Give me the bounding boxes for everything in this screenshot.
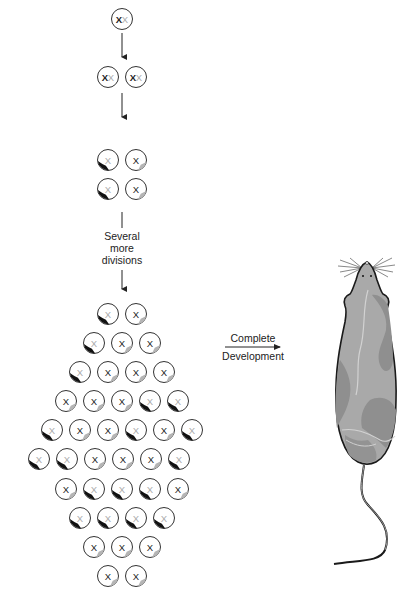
- x-chromosome-label: X: [63, 484, 70, 495]
- x-chromosome-label: X: [147, 338, 154, 349]
- cell-black: X: [168, 391, 189, 412]
- cell-grey: X: [98, 420, 119, 441]
- x-chromosome-label: X: [119, 542, 126, 553]
- x-chromosome-label: X: [133, 309, 140, 320]
- cell-grey: X: [56, 479, 77, 500]
- mouse-tail: [334, 465, 387, 564]
- cell-grey: X: [70, 420, 91, 441]
- cell-black: X: [182, 420, 203, 441]
- x-chromosome-label: X: [175, 396, 182, 407]
- cells-layer: XXXXXXXXXXXXXXXXXXXXXXXXXXXXXXXXXXXXXXXX…: [29, 9, 203, 587]
- complete-development-bottom-label: Development: [220, 350, 286, 362]
- mouse-eye-right: [370, 275, 372, 277]
- x-chromosome-label: X: [49, 425, 56, 436]
- cell-black: X: [84, 479, 105, 500]
- cell-grey: X: [56, 391, 77, 412]
- x-chromosome-label: X: [161, 513, 168, 524]
- cell-grey: X: [112, 333, 133, 354]
- cell-grey: X: [85, 449, 106, 470]
- x-chromosome-label: X: [133, 367, 140, 378]
- x-chromosome-label: X: [119, 338, 126, 349]
- x-chromosome-label: X: [91, 396, 98, 407]
- x-chromosome-label: X: [91, 484, 98, 495]
- x-chromosome-label: X: [91, 338, 98, 349]
- several-more-divisions-label: Several more divisions: [92, 230, 152, 266]
- cell-black: X: [154, 508, 175, 529]
- label-line: more: [92, 242, 152, 254]
- cell-black: X: [169, 449, 190, 470]
- x-chromosome-label: X: [161, 367, 168, 378]
- x-chromosome-label: X: [91, 542, 98, 553]
- x-inactivation-diagram: XXXXXXXXXXXXXXXXXXXXXXXXXXXXXXXXXXXXXXXX…: [0, 0, 414, 615]
- cell-grey: X: [154, 362, 175, 383]
- cell-black: X: [98, 179, 119, 200]
- cell-black: X: [57, 449, 78, 470]
- cell-black: X: [70, 362, 91, 383]
- cell-grey: X: [140, 333, 161, 354]
- x-chromosome-label: X: [77, 425, 84, 436]
- mouse-eye-left: [362, 275, 364, 277]
- x-chromosome-label: X: [105, 513, 112, 524]
- x-chromosome-label: X: [36, 454, 43, 465]
- x-chromosome-label: X: [147, 542, 154, 553]
- x-chromosome-label: X: [92, 454, 99, 465]
- x-chromosome-label: X: [77, 513, 84, 524]
- x-chromosome-label: X: [108, 72, 115, 83]
- cell-XX: XX: [98, 67, 119, 88]
- x-chromosome-label: X: [148, 454, 155, 465]
- cell-black: X: [140, 479, 161, 500]
- cell-XX: XX: [112, 9, 133, 30]
- x-chromosome-label: X: [147, 484, 154, 495]
- cell-black: X: [70, 508, 91, 529]
- cell-grey: X: [126, 566, 147, 587]
- cell-black: X: [112, 479, 133, 500]
- label-line: divisions: [92, 254, 152, 266]
- cell-grey: X: [154, 420, 175, 441]
- cell-grey: X: [168, 479, 189, 500]
- x-chromosome-label: X: [63, 396, 70, 407]
- x-chromosome-label: X: [133, 513, 140, 524]
- cell-black: X: [84, 333, 105, 354]
- x-chromosome-label: X: [119, 484, 126, 495]
- x-chromosome-label: X: [161, 425, 168, 436]
- cell-black: X: [98, 304, 119, 325]
- cell-grey: X: [140, 537, 161, 558]
- cell-black: X: [98, 508, 119, 529]
- x-chromosome-label: X: [136, 72, 143, 83]
- cell-grey: X: [112, 391, 133, 412]
- cell-grey: X: [126, 179, 147, 200]
- cell-XX: XX: [126, 67, 147, 88]
- x-chromosome-label: X: [120, 454, 127, 465]
- x-chromosome-label: X: [105, 571, 112, 582]
- complete-development-top-label: Complete: [220, 332, 286, 344]
- x-chromosome-label: X: [189, 425, 196, 436]
- x-chromosome-label: X: [64, 454, 71, 465]
- cell-grey: X: [126, 304, 147, 325]
- x-chromosome-label: X: [133, 425, 140, 436]
- mouse-illustration: [334, 258, 396, 564]
- x-chromosome-label: X: [105, 184, 112, 195]
- mouse-nose: [366, 262, 369, 265]
- cell-grey: X: [98, 362, 119, 383]
- cell-grey: X: [126, 150, 147, 171]
- cell-black: X: [42, 420, 63, 441]
- x-chromosome-label: X: [105, 155, 112, 166]
- x-chromosome-label: X: [133, 184, 140, 195]
- x-chromosome-label: X: [105, 425, 112, 436]
- x-chromosome-label: X: [133, 155, 140, 166]
- cell-black: X: [126, 508, 147, 529]
- x-chromosome-label: X: [122, 14, 129, 25]
- x-chromosome-label: X: [105, 309, 112, 320]
- cell-black: X: [140, 391, 161, 412]
- cell-grey: X: [112, 537, 133, 558]
- cell-grey: X: [141, 449, 162, 470]
- cell-grey: X: [113, 449, 134, 470]
- x-chromosome-label: X: [133, 571, 140, 582]
- cell-grey: X: [126, 362, 147, 383]
- x-chromosome-label: X: [77, 367, 84, 378]
- x-chromosome-label: X: [175, 484, 182, 495]
- x-chromosome-label: X: [176, 454, 183, 465]
- x-chromosome-label: X: [105, 367, 112, 378]
- cell-black: X: [98, 150, 119, 171]
- cell-grey: X: [84, 537, 105, 558]
